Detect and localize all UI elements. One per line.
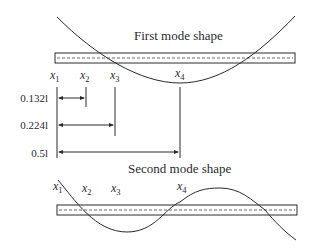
dimension-arrow-0132l — [58, 96, 85, 100]
label-x2: x2 — [79, 68, 90, 84]
label2-x2: x2 — [81, 181, 92, 197]
dimension-label-0132l: 0.132l — [20, 92, 48, 104]
first-mode-group: First mode shape x1 x2 x3 x4 — [49, 16, 295, 84]
second-mode-title: Second mode shape — [128, 161, 231, 176]
dimension-arrow-05l — [58, 150, 179, 154]
mode-shape-diagram: First mode shape x1 x2 x3 x4 — [0, 0, 315, 251]
label-x3: x3 — [109, 68, 120, 84]
dimension-label-0224l: 0.224l — [20, 119, 48, 131]
label-x4: x4 — [174, 66, 185, 82]
label-x1: x1 — [49, 68, 60, 84]
dimension-label-05l: 0.5l — [31, 147, 48, 159]
label2-x1: x1 — [52, 179, 63, 195]
second-mode-group: Second mode shape x1 x2 x3 x4 — [52, 161, 297, 240]
first-mode-title: First mode shape — [134, 28, 223, 43]
label2-x4: x4 — [176, 179, 187, 195]
label2-x3: x3 — [110, 181, 121, 197]
dimension-group — [57, 87, 180, 158]
dimension-arrow-0224l — [58, 123, 114, 127]
